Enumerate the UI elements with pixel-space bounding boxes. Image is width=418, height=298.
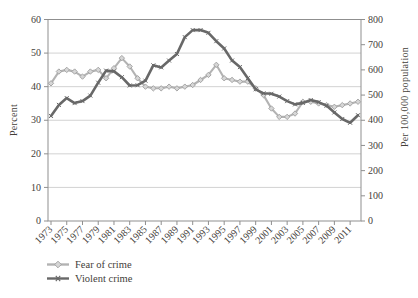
fear-data-point-marker [332,104,337,109]
legend-item-fear-of-crime: Fear of crime [46,258,132,271]
left-axis-tick-label: 50 [31,47,41,58]
left-axis-tick-label: 30 [31,114,41,125]
violent-crime-line-swatch-icon [46,273,70,284]
legend-swatch-diamond-marker [55,261,62,268]
fear-data-point-marker [340,102,345,107]
left-axis-tick-label: 0 [36,215,41,226]
left-axis-tick-label: 40 [31,81,41,92]
fear-data-point-marker [64,67,69,72]
x-axis-tick-label: 2011 [332,224,354,246]
right-axis-tick-label: 700 [368,39,383,50]
left-axis-tick-label: 10 [31,182,41,193]
left-axis-tick-label: 20 [31,148,41,159]
right-axis-tick-label: 400 [368,114,383,125]
fear-data-point-marker [229,77,234,82]
left-axis-tick-label: 60 [31,14,41,25]
right-axis-tick-label: 200 [368,165,383,176]
fear-data-point-marker [355,99,360,104]
chart-figure: 0102030405060010020030040050060070080019… [0,0,418,298]
right-axis-title: Per 100,000 population [399,47,410,147]
right-axis-tick-label: 800 [368,14,383,25]
right-axis-tick-label: 500 [368,89,383,100]
right-axis-tick-label: 100 [368,190,383,201]
fear-data-point-marker [237,79,242,84]
right-axis-tick-label: 0 [368,215,373,226]
fear-data-point-marker [166,84,171,89]
fear-data-point-marker [182,84,187,89]
legend-item-violent-crime: Violent crime [46,272,132,285]
chart-legend: Fear of crime Violent crime [46,258,132,285]
crime-trend-chart: 0102030405060010020030040050060070080019… [0,0,418,298]
fear-of-crime-line-swatch-icon [46,259,70,270]
fear-of-crime-series-line [51,58,358,117]
legend-label-violent-crime: Violent crime [75,273,132,284]
legend-label-fear-of-crime: Fear of crime [75,259,132,270]
right-axis-tick-label: 600 [368,64,383,75]
left-axis-title: Percent [8,104,19,136]
right-axis-tick-label: 300 [368,140,383,151]
fear-data-point-marker [347,101,352,106]
